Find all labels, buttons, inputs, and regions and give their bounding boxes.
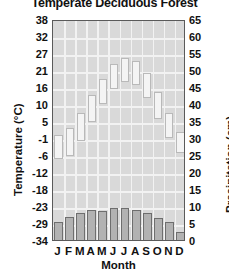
left-axis-tick-label: -6 bbox=[20, 151, 48, 162]
precipitation-bar bbox=[98, 211, 107, 241]
right-axis-tick-label: 0 bbox=[189, 236, 217, 247]
left-axis-tick-label: -18 bbox=[20, 185, 48, 196]
precipitation-bar bbox=[132, 210, 141, 241]
left-axis-tick-label: -34 bbox=[20, 236, 48, 247]
temperature-range-bar bbox=[132, 61, 140, 86]
precipitation-bar bbox=[154, 218, 163, 241]
month-labels: JFMAMJJASOND bbox=[52, 243, 185, 259]
right-axis-ticks: 65605550454035302520151050 bbox=[189, 0, 219, 276]
temperature-range-bar bbox=[121, 58, 129, 83]
right-axis-tick-label: 20 bbox=[189, 168, 217, 179]
precipitation-bar bbox=[143, 213, 152, 241]
x-axis-title: Month bbox=[52, 259, 185, 271]
month-label: M bbox=[74, 243, 85, 259]
month-label: J bbox=[107, 243, 118, 259]
right-axis-tick-label: 25 bbox=[189, 151, 217, 162]
temperature-range-bar bbox=[77, 113, 85, 141]
month-label: D bbox=[174, 243, 185, 259]
precipitation-bar bbox=[54, 222, 63, 241]
left-axis-tick-label: 16 bbox=[20, 83, 48, 94]
right-axis-tick-label: 60 bbox=[189, 32, 217, 43]
right-axis-tick-label: 5 bbox=[189, 219, 217, 230]
month-label: F bbox=[63, 243, 74, 259]
precipitation-bar bbox=[165, 222, 174, 241]
right-axis-tick-label: 45 bbox=[189, 83, 217, 94]
left-axis-tick-label: 32 bbox=[20, 32, 48, 43]
left-axis-tick-label: 5 bbox=[20, 117, 48, 128]
month-label: A bbox=[130, 243, 141, 259]
right-axis-tick-label: 50 bbox=[189, 66, 217, 77]
left-axis-tick-label: -12 bbox=[20, 168, 48, 179]
y-axis-left-title: Temperature (°C) bbox=[12, 103, 24, 196]
month-label: O bbox=[152, 243, 163, 259]
temperature-range-bar bbox=[88, 95, 96, 123]
left-axis-tick-label: 21 bbox=[20, 66, 48, 77]
precipitation-bar bbox=[76, 213, 85, 241]
right-axis-tick-label: 10 bbox=[189, 202, 217, 213]
right-axis-tick-label: 30 bbox=[189, 134, 217, 145]
precipitation-bar bbox=[87, 210, 96, 241]
right-axis-tick-label: 55 bbox=[189, 49, 217, 60]
right-axis-tick-label: 15 bbox=[189, 185, 217, 196]
temperature-range-bar bbox=[110, 64, 118, 89]
plot-area bbox=[52, 20, 185, 241]
temperature-range-bar bbox=[99, 79, 107, 104]
left-axis-tick-label: -29 bbox=[20, 219, 48, 230]
month-label: J bbox=[52, 243, 63, 259]
month-label: M bbox=[96, 243, 107, 259]
month-label: S bbox=[141, 243, 152, 259]
right-axis-tick-label: 65 bbox=[189, 15, 217, 26]
month-label: N bbox=[163, 243, 174, 259]
right-axis-tick-label: 40 bbox=[189, 100, 217, 111]
y-axis-right-title: Precipitation (cm) bbox=[224, 116, 229, 213]
month-label: J bbox=[118, 243, 129, 259]
temperature-range-bar bbox=[176, 132, 184, 153]
left-axis-tick-label: -1 bbox=[20, 134, 48, 145]
month-label: A bbox=[85, 243, 96, 259]
left-axis-tick-label: 27 bbox=[20, 49, 48, 60]
bars-layer bbox=[53, 21, 184, 240]
temperature-range-bar bbox=[54, 135, 62, 160]
precipitation-bar bbox=[65, 217, 74, 242]
right-axis-tick-label: 35 bbox=[189, 117, 217, 128]
temperature-range-bar bbox=[154, 92, 162, 120]
precipitation-bar bbox=[176, 232, 185, 241]
precipitation-bar bbox=[121, 208, 130, 241]
temperature-range-bar bbox=[143, 73, 151, 98]
temperature-range-bar bbox=[66, 128, 74, 156]
precipitation-bar bbox=[110, 208, 119, 241]
left-axis-tick-label: -23 bbox=[20, 202, 48, 213]
left-axis-tick-label: 38 bbox=[20, 15, 48, 26]
climograph: Temperate Deciduous Forest 3832272116105… bbox=[0, 0, 229, 276]
temperature-range-bar bbox=[165, 113, 173, 138]
left-axis-tick-label: 10 bbox=[20, 100, 48, 111]
